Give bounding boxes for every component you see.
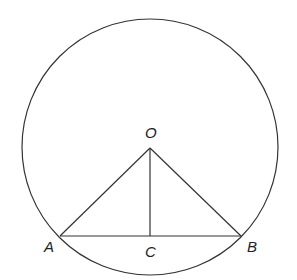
circle [22,19,278,275]
label-o: O [145,124,157,141]
label-c: C [145,243,156,260]
label-b: B [247,238,257,255]
geometry-diagram: O A B C [0,0,297,280]
segment-ob [150,148,241,236]
label-a: A [43,238,54,255]
segment-oa [60,148,150,236]
